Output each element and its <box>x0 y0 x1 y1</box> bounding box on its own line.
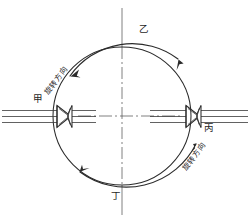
left-shaft-assembly <box>2 106 96 128</box>
station-label-top: 乙 <box>139 23 149 34</box>
left-coupling <box>57 106 72 128</box>
diagram-canvas: 乙 丁 甲 丙 旋转方向 旋转方向 <box>0 0 250 222</box>
station-label-right: 丙 <box>204 122 214 133</box>
right-shaft-assembly <box>150 106 248 128</box>
top-rotation-arrow <box>70 44 184 78</box>
station-label-left: 甲 <box>33 93 43 104</box>
right-coupling <box>186 106 201 128</box>
left-rotation-direction-label: 旋转方向 <box>41 64 70 97</box>
engineering-diagram: 乙 丁 甲 丙 旋转方向 旋转方向 <box>0 0 250 222</box>
station-label-bottom: 丁 <box>111 190 121 201</box>
